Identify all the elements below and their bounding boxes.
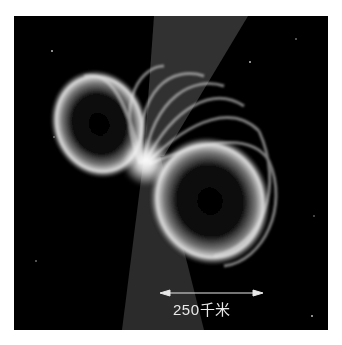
pulsar-illustration: [14, 16, 328, 330]
scale-bar-label: 250千米: [173, 298, 231, 319]
pulsar-graphic: [14, 16, 328, 330]
pulsar-core: [122, 138, 170, 186]
